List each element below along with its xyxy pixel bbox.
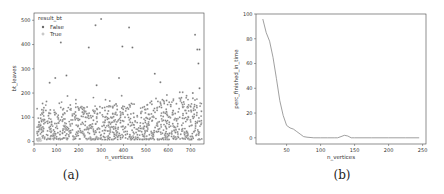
y-tick-label: 100: [243, 11, 253, 17]
y-tick-label: 400: [21, 41, 31, 47]
outlier-point: [118, 77, 120, 79]
y-tick-label: 100: [21, 114, 31, 120]
x-tick-label: 250: [418, 147, 428, 153]
legend: result_btFalseTrue: [38, 15, 64, 37]
y-axis-label: bt_leaves: [11, 65, 18, 91]
y-tick-label: 80: [246, 36, 252, 42]
outlier-point: [100, 18, 102, 20]
outlier-point: [199, 48, 201, 50]
outlier-point: [60, 42, 62, 44]
outlier-point: [88, 46, 90, 48]
y-tick-label: 20: [246, 110, 252, 116]
legend-title: result_bt: [38, 15, 63, 22]
chart-a: 01002003004005006007000100200300400500n_…: [0, 0, 222, 194]
legend-marker-true: [42, 33, 44, 35]
x-tick-label: 500: [141, 147, 151, 153]
data-line: [263, 19, 419, 138]
legend-label-true: True: [49, 31, 62, 37]
outlier-point: [128, 27, 130, 29]
y-tick-label: 500: [21, 17, 31, 23]
caption-b: (b): [312, 168, 372, 182]
y-tick-label: 40: [246, 85, 252, 91]
caption-a: (a): [41, 168, 101, 182]
x-tick-label: 700: [186, 147, 196, 153]
axes-frame: [256, 14, 426, 144]
x-tick-label: 600: [163, 147, 173, 153]
x-tick-label: 0: [32, 147, 35, 153]
outlier-point: [194, 34, 196, 36]
outlier-point: [196, 48, 198, 50]
x-tick-label: 50: [283, 147, 289, 153]
y-tick-label: 0: [27, 138, 30, 144]
x-tick-label: 150: [350, 147, 360, 153]
y-tick-label: 300: [21, 66, 31, 72]
chart-b: 50100150200250020406080100n_verticesperc…: [222, 0, 444, 194]
x-tick-label: 200: [384, 147, 394, 153]
outlier-point: [197, 62, 199, 64]
x-tick-label: 400: [119, 147, 129, 153]
line-plot: 50100150200250020406080100n_verticesperc…: [222, 0, 444, 194]
outlier-point: [121, 45, 123, 47]
true-point: [40, 140, 42, 142]
outlier-point: [95, 24, 97, 26]
legend-label-false: False: [50, 24, 64, 30]
outlier-point: [65, 75, 67, 77]
outlier-point: [159, 81, 161, 83]
scatter-plot: 01002003004005006007000100200300400500n_…: [0, 0, 222, 194]
outlier-point: [54, 77, 56, 79]
outlier-point: [96, 84, 98, 86]
y-axis-label: perc_finished_in_time: [233, 49, 240, 109]
x-tick-label: 100: [52, 147, 62, 153]
x-axis-label: n_vertices: [105, 154, 133, 161]
outlier-point: [192, 92, 194, 94]
y-tick-label: 0: [249, 135, 252, 141]
true-point: [39, 138, 41, 140]
outlier-point: [49, 82, 51, 84]
x-tick-label: 100: [316, 147, 326, 153]
y-tick-label: 200: [21, 90, 31, 96]
x-axis-label: n_vertices: [327, 154, 355, 161]
x-tick-label: 300: [96, 147, 106, 153]
outlier-point: [154, 73, 156, 75]
outlier-point: [131, 46, 133, 48]
y-tick-label: 60: [246, 60, 252, 66]
legend-marker-false: [42, 26, 44, 28]
x-tick-label: 200: [74, 147, 84, 153]
outlier-point: [199, 87, 201, 89]
